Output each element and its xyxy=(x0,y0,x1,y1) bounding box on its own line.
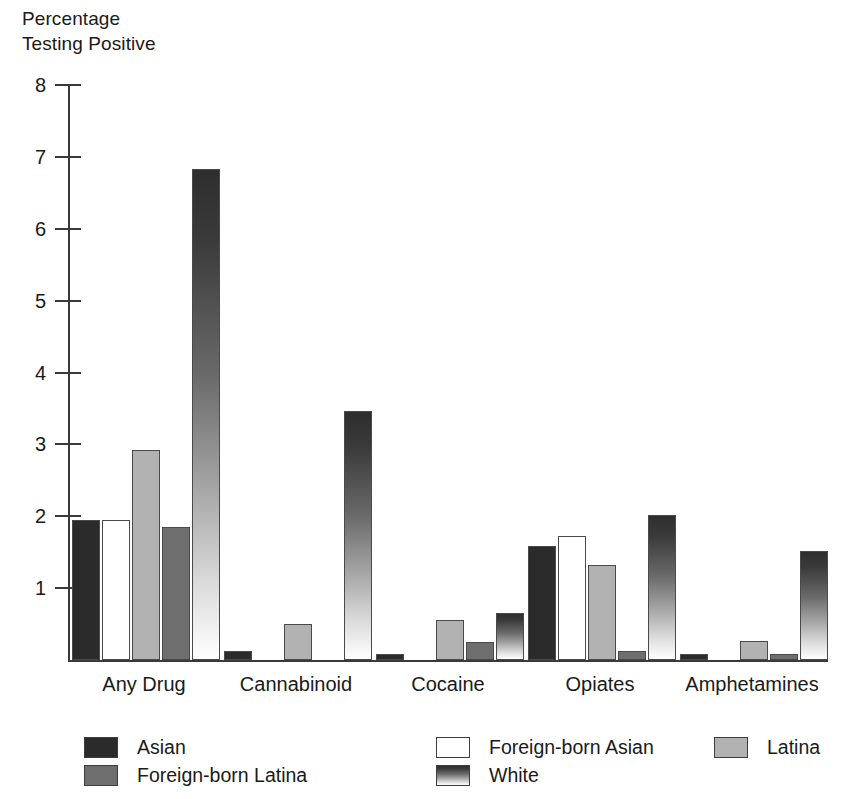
x-axis-line xyxy=(68,660,828,662)
legend-item-foreign-born-asian: Foreign-born Asian xyxy=(436,733,654,761)
bar-any-drug-foreign-born-asian xyxy=(102,520,130,660)
bar-cannabinoid-white xyxy=(344,411,372,660)
bar-any-drug-white xyxy=(192,169,220,660)
legend-item-latina: Latina xyxy=(714,733,820,761)
category-label-cocaine: Cocaine xyxy=(372,672,524,696)
bar-group-opiates xyxy=(528,85,676,660)
y-tick-label-6: 6 xyxy=(0,219,46,239)
bar-any-drug-asian xyxy=(72,520,100,660)
legend-label-white: White xyxy=(489,765,539,786)
bar-amphetamines-foreign-born-latina xyxy=(770,654,798,660)
bar-group-amphetamines xyxy=(680,85,828,660)
y-tick-label-4: 4 xyxy=(0,363,46,383)
bar-any-drug-latina xyxy=(132,450,160,660)
category-label-amphetamines: Amphetamines xyxy=(676,672,828,696)
bar-cocaine-latina xyxy=(436,620,464,660)
bar-opiates-foreign-born-asian xyxy=(558,536,586,660)
chart-legend: Asian Foreign-born Asian Latina Foreign-… xyxy=(84,733,784,789)
legend-label-latina: Latina xyxy=(767,737,820,758)
bar-opiates-white xyxy=(648,515,676,660)
bar-cocaine-white xyxy=(496,613,524,660)
legend-row-1: Asian Foreign-born Asian Latina xyxy=(84,733,784,761)
legend-swatch-foreign-born-asian xyxy=(436,737,470,758)
legend-swatch-asian xyxy=(84,737,118,758)
bar-opiates-latina xyxy=(588,565,616,660)
bar-amphetamines-white xyxy=(800,551,828,660)
legend-label-foreign-born-asian: Foreign-born Asian xyxy=(489,737,654,758)
legend-swatch-white xyxy=(436,765,470,786)
bar-opiates-foreign-born-latina xyxy=(618,651,646,660)
legend-item-foreign-born-latina: Foreign-born Latina xyxy=(84,761,307,789)
plot-area xyxy=(68,85,828,660)
y-tick-label-8: 8 xyxy=(0,75,46,95)
bar-group-cannabinoid xyxy=(224,85,372,660)
legend-swatch-foreign-born-latina xyxy=(84,765,118,786)
bar-group-cocaine xyxy=(376,85,524,660)
bar-cannabinoid-asian xyxy=(224,651,252,660)
y-tick-label-1: 1 xyxy=(0,578,46,598)
y-tick-label-3: 3 xyxy=(0,434,46,454)
bar-cocaine-asian xyxy=(376,654,404,660)
legend-label-foreign-born-latina: Foreign-born Latina xyxy=(137,765,307,786)
y-tick-label-2: 2 xyxy=(0,506,46,526)
y-axis-title: Percentage Testing Positive xyxy=(22,6,156,56)
legend-label-asian: Asian xyxy=(137,737,186,758)
bar-cannabinoid-latina xyxy=(284,624,312,660)
bar-any-drug-foreign-born-latina xyxy=(162,527,190,660)
category-label-any-drug: Any Drug xyxy=(68,672,220,696)
y-tick-label-7: 7 xyxy=(0,147,46,167)
y-tick-label-5: 5 xyxy=(0,291,46,311)
category-label-cannabinoid: Cannabinoid xyxy=(220,672,372,696)
bar-amphetamines-latina xyxy=(740,641,768,660)
bar-cocaine-foreign-born-latina xyxy=(466,642,494,660)
bar-opiates-asian xyxy=(528,546,556,660)
legend-swatch-latina xyxy=(714,737,748,758)
bar-chart-figure: Percentage Testing Positive 12345678 Any… xyxy=(0,0,846,799)
category-label-opiates: Opiates xyxy=(524,672,676,696)
legend-row-2: Foreign-born Latina White xyxy=(84,761,784,789)
bar-amphetamines-asian xyxy=(680,654,708,660)
legend-item-asian: Asian xyxy=(84,733,186,761)
bar-group-any-drug xyxy=(72,85,220,660)
legend-item-white: White xyxy=(436,761,539,789)
